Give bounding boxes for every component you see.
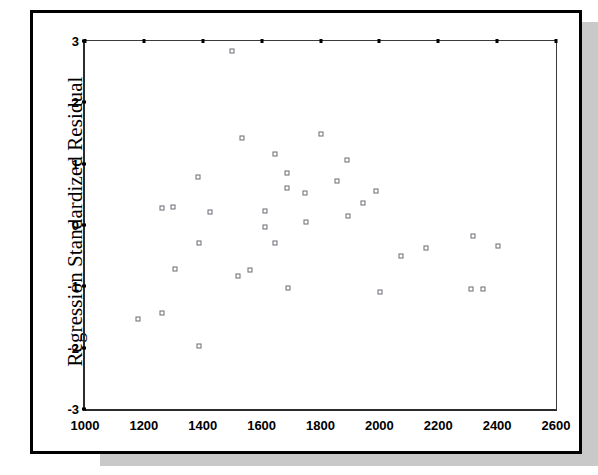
scatter-point [344, 157, 349, 162]
scatter-point [229, 48, 234, 53]
x-axis-tick-mark [437, 39, 440, 43]
scatter-point [480, 286, 485, 291]
y-axis-tick-label: 3 [72, 34, 79, 49]
x-axis-tick-label: 2600 [542, 418, 571, 433]
x-axis-tick-label: 1400 [188, 418, 217, 433]
scatter-point [345, 213, 350, 218]
y-axis-tick-mark [82, 101, 86, 104]
scatter-point [272, 241, 277, 246]
x-axis-tick-label: 1000 [71, 418, 100, 433]
y-axis-tick-mark [82, 285, 86, 288]
scatter-points-layer [85, 41, 556, 409]
y-axis-tick-mark [82, 224, 86, 227]
x-axis-tick-label: 1200 [129, 418, 158, 433]
y-axis-tick-label: 0 [72, 218, 79, 233]
x-axis-tick-label: 2000 [365, 418, 394, 433]
scatter-point [361, 200, 366, 205]
y-axis-tick-label: 2 [72, 95, 79, 110]
scatter-point [303, 191, 308, 196]
x-axis-tick-mark [201, 39, 204, 43]
scatter-point [171, 204, 176, 209]
scatter-point [263, 208, 268, 213]
scatter-point [247, 267, 252, 272]
scatter-point [172, 267, 177, 272]
y-axis-tick-label: -3 [67, 402, 79, 417]
y-axis-tick-label: -1 [67, 279, 79, 294]
x-axis-tick-label: 1600 [247, 418, 276, 433]
scatter-point [377, 290, 382, 295]
x-axis-tick-mark [496, 39, 499, 43]
x-axis-tick-mark [84, 39, 87, 43]
scatter-point [197, 344, 202, 349]
scatter-point [304, 219, 309, 224]
scatter-point [197, 240, 202, 245]
x-axis-tick-label: 2400 [483, 418, 512, 433]
x-axis-tick-label: 2200 [424, 418, 453, 433]
scatter-point [196, 175, 201, 180]
scatter-point [495, 244, 500, 249]
scatter-point [263, 225, 268, 230]
x-axis-tick-label: 1800 [306, 418, 335, 433]
plot-area: 3210-1-2-3100012001400160018002000220024… [83, 40, 557, 411]
x-axis-tick-mark [260, 39, 263, 43]
figure-frame: Regression Standardized Residual 3210-1-… [30, 10, 582, 454]
scatter-point [334, 178, 339, 183]
x-axis-tick-mark [142, 39, 145, 43]
scatter-point [272, 152, 277, 157]
scatter-point [423, 246, 428, 251]
y-axis-tick-mark [82, 346, 86, 349]
figure-shadow-bottom [100, 452, 598, 466]
scatter-point [160, 311, 165, 316]
scatter-point [208, 209, 213, 214]
y-axis-tick-label: 1 [72, 156, 79, 171]
screenshot-root: Regression Standardized Residual 3210-1-… [0, 0, 598, 475]
scatter-point [239, 135, 244, 140]
x-axis-tick-mark [555, 39, 558, 43]
x-axis-tick-mark [378, 39, 381, 43]
scatter-point [135, 316, 140, 321]
scatter-point [160, 205, 165, 210]
scatter-point [236, 273, 241, 278]
scatter-point [470, 234, 475, 239]
y-axis-tick-label: -2 [67, 340, 79, 355]
scatter-point [469, 287, 474, 292]
scatter-point [284, 186, 289, 191]
y-axis-tick-mark [82, 408, 86, 411]
x-axis-tick-mark [319, 39, 322, 43]
scatter-point [286, 286, 291, 291]
scatter-point [373, 188, 378, 193]
y-axis-tick-mark [82, 162, 86, 165]
scatter-point [319, 131, 324, 136]
scatter-point [284, 171, 289, 176]
scatter-point [399, 253, 404, 258]
